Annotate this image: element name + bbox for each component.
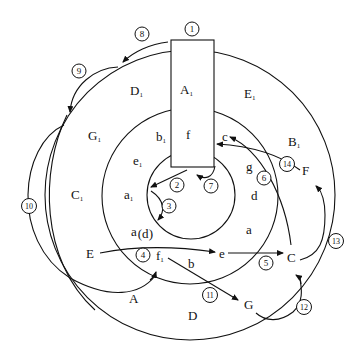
svg-text:D1: D1 [130, 83, 143, 99]
label-G: G [244, 297, 253, 312]
label-a: a [246, 222, 252, 237]
svg-text:5: 5 [264, 258, 269, 268]
label-b: b [188, 256, 195, 271]
label-e: e [219, 246, 225, 261]
svg-text:e1: e1 [133, 153, 143, 169]
arc-13 [300, 186, 325, 260]
label-g: g [246, 159, 253, 174]
label-C: C [287, 250, 296, 265]
svg-text:9: 9 [77, 66, 82, 76]
svg-text:10: 10 [25, 202, 33, 211]
svg-text:12: 12 [300, 303, 308, 312]
region-diagram: A1 f D1 E1 G1 b1 B1 e1 c g C1 a1 d a a(d… [0, 0, 361, 358]
arc-outer-left [49, 115, 95, 310]
arrow-7 [197, 166, 215, 178]
svg-text:1: 1 [190, 24, 195, 34]
svg-text:f1: f1 [156, 248, 164, 264]
arc-10 [28, 125, 155, 292]
svg-text:11: 11 [206, 291, 214, 300]
arrow-6 [230, 137, 291, 245]
label-d: d [251, 188, 258, 203]
label-f: f [186, 127, 191, 142]
svg-text:14: 14 [283, 160, 291, 169]
svg-text:13: 13 [332, 237, 340, 246]
svg-text:6: 6 [262, 173, 267, 183]
svg-text:2: 2 [175, 180, 180, 190]
svg-text:a(d): a(d) [131, 224, 153, 241]
svg-text:G1: G1 [88, 128, 101, 144]
label-F: F [302, 163, 309, 178]
svg-text:3: 3 [167, 201, 172, 211]
rectangle-region [171, 40, 214, 167]
label-c: c [222, 129, 228, 144]
svg-text:B1: B1 [288, 134, 301, 150]
svg-text:b1: b1 [156, 129, 167, 145]
svg-text:a1: a1 [124, 187, 134, 203]
svg-text:E1: E1 [244, 86, 256, 102]
svg-text:8: 8 [140, 29, 145, 39]
label-A: A [129, 291, 139, 306]
label-D: D [188, 308, 197, 323]
label-E: E [86, 246, 94, 261]
svg-text:C1: C1 [71, 187, 84, 203]
svg-text:7: 7 [209, 181, 214, 191]
svg-text:4: 4 [141, 250, 146, 260]
arrow-8 [123, 42, 168, 62]
arc-12 [256, 278, 301, 320]
